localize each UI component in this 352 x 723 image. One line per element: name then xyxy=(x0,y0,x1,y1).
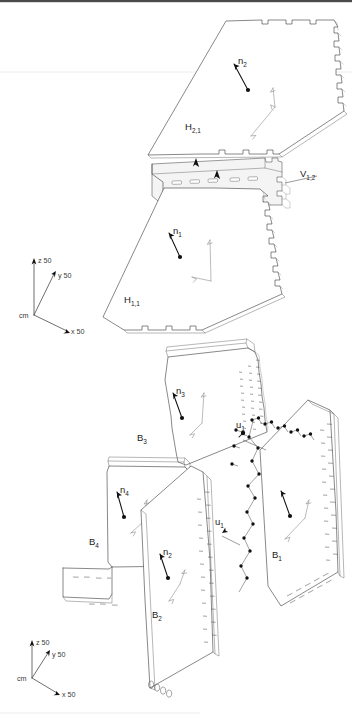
panel-B3[interactable] xyxy=(165,339,268,465)
u1-lower-leader xyxy=(222,536,240,545)
panel-V12-slot xyxy=(208,179,218,183)
panel-H2-face xyxy=(148,20,344,155)
panel-V12-tabs-right-2 xyxy=(286,185,290,208)
exploded-assembly-drawing: n2 H2,1 V1,2 n1 H1,1 xyxy=(0,0,352,723)
axis-y-bottom xyxy=(32,653,48,678)
panel-B2[interactable] xyxy=(141,466,219,697)
n2-base-point xyxy=(246,88,250,92)
n3-base-point xyxy=(180,416,184,420)
axis-y-top xyxy=(34,274,54,315)
b1-normal-base-point xyxy=(288,514,292,518)
panel-H1-thickness-front xyxy=(124,330,205,333)
label-u1-lower: u1 xyxy=(215,516,224,529)
panel-B1[interactable] xyxy=(260,400,344,606)
label-panel-B3: B3 xyxy=(137,432,147,445)
coordinate-triad-bottom: z 50 y 50 x 50 cm xyxy=(17,638,76,699)
label-panel-V12: V1,2 xyxy=(300,168,316,181)
u1-upper-leader xyxy=(243,440,266,450)
panel-B4-bottom-slots xyxy=(73,577,118,605)
axis-y-arrowhead-top xyxy=(51,271,56,278)
panel-V12-slot xyxy=(230,178,240,182)
axis-label-x-bottom: x 50 xyxy=(62,690,76,699)
callout-V12[interactable]: V1,2 xyxy=(285,168,317,183)
panel-V12-slot xyxy=(248,177,258,181)
axis-origin-label-top: cm xyxy=(19,311,29,320)
n4-base-point xyxy=(122,515,126,519)
panel-V12-slot xyxy=(172,181,182,185)
callout-u1-lower[interactable]: u1 xyxy=(215,516,240,545)
connector-nodes-chain xyxy=(239,435,260,579)
axis-label-y-top: y 50 xyxy=(58,271,72,280)
n2b-base-point xyxy=(166,576,170,580)
axis-label-x-top: x 50 xyxy=(71,327,85,336)
panel-B3-face xyxy=(165,348,267,465)
axis-label-z-bottom: z 50 xyxy=(36,638,50,647)
axis-label-y-bottom: y 50 xyxy=(52,650,66,659)
panel-B4-bottom-flange-edge xyxy=(63,594,112,603)
axis-origin-label-bottom: cm xyxy=(17,674,27,683)
page-top-border xyxy=(0,0,352,2)
panel-B1-face xyxy=(260,400,338,606)
panel-V12-slot xyxy=(190,180,200,184)
panel-H1[interactable] xyxy=(103,188,285,333)
panel-B4-bottom-flange xyxy=(63,567,112,599)
panel-H2-thickness-front xyxy=(148,155,282,158)
diagram-canvas: n2 H2,1 V1,2 n1 H1,1 xyxy=(0,0,352,723)
panel-H1-face xyxy=(103,188,282,330)
axis-x-bottom xyxy=(32,678,57,693)
panel-V12-tabs-right xyxy=(282,177,286,208)
label-panel-B4: B4 xyxy=(89,536,99,549)
axis-x-top xyxy=(34,315,67,331)
n1-base-point xyxy=(178,255,182,259)
coordinate-triad-top: z 50 y 50 x 50 cm xyxy=(19,256,85,336)
axis-label-z-top: z 50 xyxy=(38,256,52,265)
